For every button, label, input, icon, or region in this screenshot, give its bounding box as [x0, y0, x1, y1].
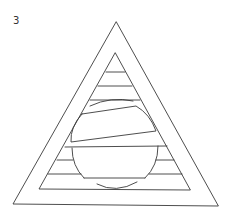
displaced-slab — [71, 106, 156, 142]
triangle-sphere-illustration — [0, 0, 232, 218]
inner-triangle — [39, 53, 190, 190]
sphere-bottom-arc — [97, 182, 137, 189]
stripe-4 — [65, 146, 167, 147]
sphere-lower-right-arc — [145, 146, 158, 178]
sphere-lower-left-arc — [72, 148, 84, 178]
